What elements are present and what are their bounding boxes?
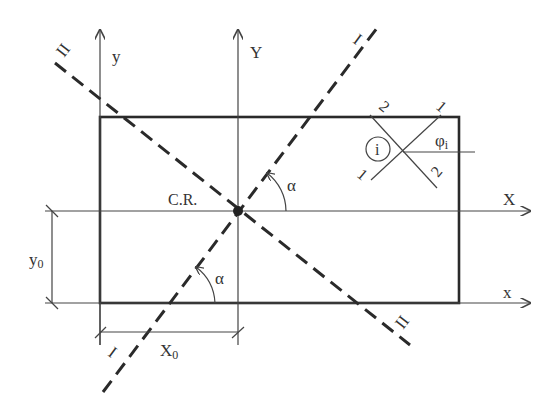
X-axis-label: X [503,190,515,209]
dir-1-bottom-label: 1 [354,165,371,183]
x0-label: X0 [160,341,178,362]
x-axis-label: x [503,283,512,302]
axis-II-bottom-label: II [391,312,413,333]
angle-arc-upper [267,173,286,211]
axis-I-top-label: I [350,30,366,49]
center-of-rigidity-point [233,206,243,216]
dir-2-bottom-label: 2 [427,163,445,180]
axis-II-top-label: II [52,40,74,61]
dir-1-top-label: 1 [433,97,450,115]
angle-label-upper: α [287,176,296,195]
angle-arc-lower [196,267,215,303]
axis-I-bottom-label: I [105,343,121,362]
y-axis-label: y [112,47,121,66]
element-id-label: i [375,141,380,158]
element-phi-label: φi [435,131,449,152]
plan-outline [100,117,459,303]
y0-label: y0 [29,250,44,271]
Y-axis-label: Y [250,43,262,62]
dir-2-top-label: 2 [376,97,393,115]
rigidity-center-diagram: y Y X x I I II II C.R. α α y0 X0 i φi 2 … [0,0,555,413]
element-i: i φi 2 1 1 2 [354,97,475,188]
center-of-rigidity-label: C.R. [168,191,197,208]
angle-label-lower: α [215,269,224,288]
